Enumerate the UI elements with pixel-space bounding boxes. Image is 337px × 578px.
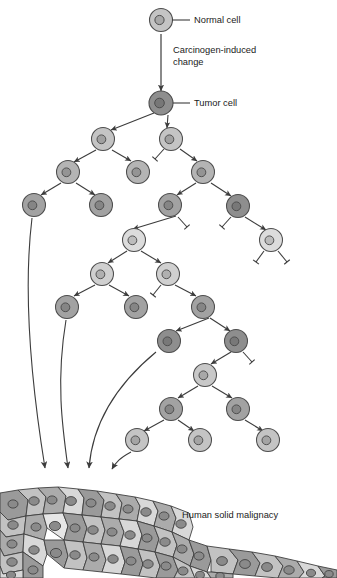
dead-end-bar [278, 251, 290, 264]
cell-nucleus [165, 135, 174, 144]
division-arrow [245, 217, 266, 230]
cell-nucleus [165, 405, 174, 414]
tumor-cell-nucleus [50, 548, 61, 557]
cell-nucleus [96, 270, 105, 279]
clone-cell [157, 263, 180, 286]
tumor-cell-nucleus [107, 528, 117, 536]
division-arrow [180, 149, 197, 161]
division-arrow [41, 183, 61, 195]
tumor-cell-nucleus [29, 546, 39, 555]
tumor-cell-nucleus [89, 553, 99, 561]
tumor-cell-nucleus [178, 567, 188, 575]
tumor-cell-nucleus [262, 563, 273, 572]
clone-cell [159, 194, 182, 217]
cell-nucleus [262, 436, 271, 445]
division-arrow [144, 420, 164, 431]
cell-nucleus [131, 436, 140, 445]
cell-nucleus [163, 337, 172, 346]
cell-nucleus [194, 436, 203, 445]
tumor-cell-nucleus [240, 560, 251, 569]
tumor-cell-nucleus [160, 538, 170, 547]
clone-cell [90, 194, 113, 217]
tumor-cell-nucleus [306, 569, 315, 577]
cell-nucleus [132, 168, 141, 177]
clone-cell [56, 296, 79, 319]
dead-end-bar [178, 217, 190, 229]
dead-end-bar [253, 251, 264, 264]
cell-nucleus [197, 303, 206, 312]
division-arrow [178, 420, 194, 431]
tumor-cell-label: Tumor cell [194, 98, 237, 108]
clone-cell [158, 330, 181, 353]
tumor-cell-nucleus [325, 571, 333, 578]
clone-cell [192, 296, 215, 319]
metastasis-arrow [61, 320, 68, 468]
division-arrow [210, 318, 230, 331]
dead-end-bar [152, 149, 164, 161]
division-arrow [245, 420, 263, 431]
dead-end-bar [219, 217, 231, 229]
clone-cell [123, 229, 146, 252]
clone-cell [23, 194, 46, 217]
clone-cell [225, 330, 248, 353]
division-arrow [167, 115, 168, 128]
division-arrow [212, 386, 232, 398]
tumor-cell-nucleus [159, 512, 169, 520]
clone-cell [257, 429, 280, 452]
solid-malignancy-label: Human solid malignacy [182, 510, 278, 520]
division-arrow [109, 285, 129, 296]
top-chain-group: Normal cell Carcinogen-induced change Tu… [149, 9, 256, 116]
division-arrow [175, 285, 196, 296]
cell-nucleus [164, 201, 173, 210]
clone-cell [125, 296, 148, 319]
clone-cell [160, 398, 183, 421]
tumor-cell-nucleus [217, 557, 228, 566]
tumor-cell-nucleus [86, 499, 96, 507]
cell-nucleus [95, 201, 104, 210]
cell-nucleus [61, 303, 70, 312]
cell-nucleus [199, 371, 208, 380]
division-arrow [176, 318, 209, 331]
tumor-cell-nucleus [49, 521, 60, 530]
tumor-cell-nucleus [6, 571, 15, 578]
division-arrow [141, 251, 161, 263]
tumor-cell-nucleus [125, 531, 135, 540]
tumor-cell-nucleus [8, 521, 18, 530]
clone-cell [227, 398, 250, 421]
division-arrow [74, 150, 96, 162]
tumor-cell-nucleus [8, 500, 18, 508]
division-arrow [74, 285, 95, 296]
clone-cell [126, 429, 149, 452]
cell-nucleus [232, 405, 241, 414]
clone-cell [57, 161, 80, 184]
tumor-cell-nucleus [216, 573, 224, 578]
cell-nucleus [97, 135, 106, 144]
division-arrow [211, 352, 231, 364]
cell-nucleus [230, 337, 239, 346]
cell-nucleus [265, 236, 274, 245]
clone-cell [127, 161, 150, 184]
clone-cell [260, 229, 283, 252]
division-arrow [178, 386, 198, 398]
cell-nucleus [62, 168, 71, 177]
metastasis-arrow [89, 352, 156, 468]
metastasis-arrow [28, 218, 45, 468]
clone-cell [189, 429, 212, 452]
carcinogen-label-line1: Carcinogen-induced [173, 45, 256, 55]
tumor-cell-nucleus [88, 526, 98, 535]
cell-nucleus [197, 168, 206, 177]
tumor-cell-nucleus [155, 98, 165, 108]
cell-nucleus [130, 303, 139, 312]
clone-cell [160, 128, 183, 151]
tumor-mass-cell [44, 540, 68, 568]
tumor-cell-nucleus [108, 555, 118, 564]
cell-nucleus [162, 270, 171, 279]
carcinogen-label-line2: change [173, 57, 204, 67]
clone-cell [194, 364, 217, 387]
clone-cell [92, 128, 115, 151]
tumor-cell-nucleus [105, 502, 115, 511]
dead-end-bar [150, 285, 161, 297]
figure-canvas: Normal cell Carcinogen-induced change Tu… [0, 0, 337, 578]
division-arrow [76, 183, 95, 195]
division-arrow [177, 183, 196, 195]
